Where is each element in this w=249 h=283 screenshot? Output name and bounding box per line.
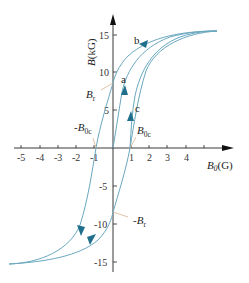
hysteresis-diagram: -5 -4 -3 -2 -1 1 2 3 4 15 10 5 -5 -10 -1… bbox=[0, 0, 249, 283]
curve-a bbox=[113, 31, 217, 148]
neg-b0c-label: -B0c bbox=[74, 121, 92, 136]
x-tick--4: -4 bbox=[36, 152, 44, 163]
y-tick-10: 10 bbox=[99, 67, 109, 78]
label-c: c bbox=[135, 102, 140, 114]
b0c-label: B0c bbox=[137, 124, 151, 139]
label-b: b bbox=[134, 34, 140, 46]
x-tick--3: -3 bbox=[54, 152, 62, 163]
br-label: Br bbox=[86, 88, 96, 103]
label-a: a bbox=[121, 73, 126, 85]
y-tick--15: -15 bbox=[94, 257, 107, 268]
axes: -5 -4 -3 -2 -1 1 2 3 4 15 10 5 -5 -10 -1… bbox=[14, 14, 234, 272]
neg-br-label: -Br bbox=[133, 214, 146, 229]
y-tick--10: -10 bbox=[94, 219, 107, 230]
y-axis-label: B(kG) bbox=[85, 38, 98, 66]
arrow-descending-lower-icon bbox=[77, 225, 85, 236]
x-tick-4: 4 bbox=[184, 152, 189, 163]
y-tick-15: 15 bbox=[99, 30, 109, 41]
y-axis-arrow-icon bbox=[110, 14, 116, 25]
x-axis-arrow-icon bbox=[222, 145, 234, 151]
arrow-ascending-lower-icon bbox=[87, 234, 96, 245]
x-axis-label: B0(G) bbox=[207, 159, 233, 173]
y-tick--5: -5 bbox=[99, 181, 107, 192]
x-tick-1: 1 bbox=[129, 152, 134, 163]
x-tick--2: -2 bbox=[72, 152, 80, 163]
x-tick-3: 3 bbox=[165, 152, 170, 163]
x-tick-2: 2 bbox=[147, 152, 152, 163]
x-tick--5: -5 bbox=[17, 152, 25, 163]
